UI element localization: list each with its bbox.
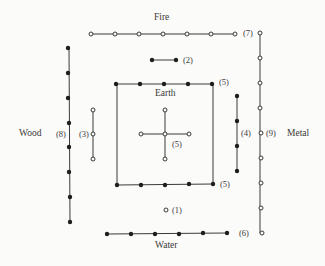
label-metal: Metal bbox=[287, 129, 309, 139]
five-elements-diagram: Fire Water Wood Metal Earth (1) (2) (3) … bbox=[0, 0, 325, 266]
number-9-label: (9) bbox=[266, 129, 276, 138]
number-5-bottom-label: (5) bbox=[220, 180, 230, 189]
number-5-top-label: (5) bbox=[219, 78, 229, 87]
number-2-label: (2) bbox=[183, 56, 193, 65]
label-wood: Wood bbox=[19, 129, 41, 139]
number-5-center-label: (5) bbox=[172, 140, 182, 149]
number-4-label: (4) bbox=[241, 129, 251, 138]
number-7-label: (7) bbox=[243, 29, 253, 38]
number-3-label: (3) bbox=[79, 130, 89, 139]
number-8-label: (8) bbox=[56, 130, 66, 139]
number-6-label: (6) bbox=[239, 229, 249, 238]
label-earth: Earth bbox=[155, 89, 176, 99]
label-water: Water bbox=[155, 241, 177, 251]
number-1-label: (1) bbox=[172, 206, 182, 215]
label-fire: Fire bbox=[154, 13, 169, 23]
dot-pattern-graphic bbox=[0, 0, 325, 266]
group-6-connector bbox=[107, 233, 227, 234]
